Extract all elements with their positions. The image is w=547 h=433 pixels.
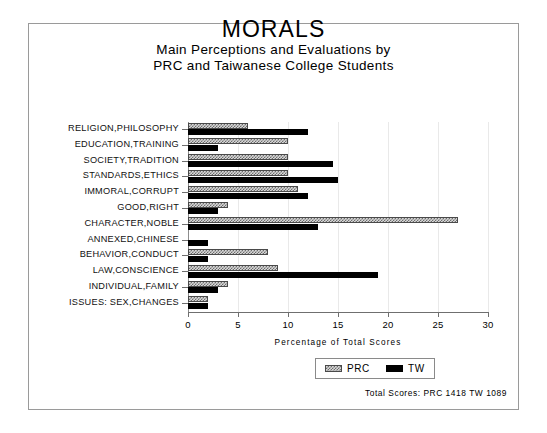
x-axis-tick-label: 15 — [332, 319, 343, 330]
bar-prc — [188, 281, 228, 287]
x-axis-tick-label: 20 — [382, 319, 393, 330]
category-label: GOOD,RIGHT — [117, 202, 179, 212]
x-axis-tick-label: 25 — [432, 319, 443, 330]
bar-row: SOCIETY,TRADITION — [188, 154, 488, 170]
x-axis-tick-label: 30 — [482, 319, 493, 330]
chart-subtitle-line-2: PRC and Taiwanese College Students — [0, 58, 547, 74]
bar-tw — [188, 129, 308, 135]
bar-prc — [188, 154, 288, 160]
category-label: LAW,CONSCIENCE — [93, 265, 179, 275]
x-axis-tick — [288, 312, 289, 317]
x-axis-tick — [488, 312, 489, 317]
legend-item-prc: PRC — [325, 363, 370, 374]
bar-row: EDUCATION,TRAINING — [188, 138, 488, 154]
bar-row: ISSUES: SEX,CHANGES — [188, 296, 488, 312]
legend-item-tw: TW — [386, 363, 425, 374]
chart-legend: PRC TW — [315, 358, 435, 379]
category-label: IMMORAL,CORRUPT — [84, 186, 179, 196]
bar-tw — [188, 193, 308, 199]
bar-tw — [188, 287, 218, 293]
bar-row: STANDARDS,ETHICS — [188, 169, 488, 185]
category-label: ISSUES: SEX,CHANGES — [69, 297, 179, 307]
x-axis-label: Percentage of Total Scores — [188, 338, 488, 347]
chart-title: MORALS — [0, 16, 547, 42]
bar-tw — [188, 208, 218, 214]
category-label: INDIVIDUAL,FAMILY — [89, 281, 179, 291]
title-block: MORALS Main Perceptions and Evaluations … — [0, 16, 547, 74]
bar-tw — [188, 145, 218, 151]
legend-label-tw: TW — [408, 363, 425, 374]
bar-tw — [188, 240, 208, 246]
x-axis-tick-label: 5 — [235, 319, 241, 330]
category-label: STANDARDS,ETHICS — [83, 170, 179, 180]
bar-prc — [188, 296, 208, 302]
x-axis-tick — [338, 312, 339, 317]
bar-prc — [188, 186, 298, 192]
total-scores-annotation: Total Scores: PRC 1418 TW 1089 — [0, 388, 507, 398]
x-axis-tick — [188, 312, 189, 317]
legend-swatch-prc — [325, 365, 342, 372]
bar-tw — [188, 177, 338, 183]
bar-prc — [188, 249, 268, 255]
bar-tw — [188, 303, 208, 309]
x-axis-tick — [438, 312, 439, 317]
bar-prc — [188, 170, 288, 176]
bar-prc — [188, 138, 288, 144]
bar-prc — [188, 217, 458, 223]
category-label: BEHAVIOR,CONDUCT — [80, 249, 179, 259]
bar-row: BEHAVIOR,CONDUCT — [188, 248, 488, 264]
bar-row: INDIVIDUAL,FAMILY — [188, 280, 488, 296]
category-label: EDUCATION,TRAINING — [75, 139, 179, 149]
bar-row: IMMORAL,CORRUPT — [188, 185, 488, 201]
bar-row: RELIGION,PHILOSOPHY — [188, 122, 488, 138]
category-label: ANNEXED,CHINESE — [87, 234, 179, 244]
plot-area: RELIGION,PHILOSOPHYEDUCATION,TRAININGSOC… — [188, 122, 488, 312]
bar-tw — [188, 161, 333, 167]
legend-label-prc: PRC — [347, 363, 370, 374]
x-axis-tick — [238, 312, 239, 317]
x-axis-tick — [388, 312, 389, 317]
category-label: SOCIETY,TRADITION — [84, 155, 179, 165]
legend-swatch-tw — [386, 365, 403, 372]
bar-prc — [188, 202, 228, 208]
bar-tw — [188, 256, 208, 262]
x-axis-tick-label: 0 — [185, 319, 191, 330]
bar-row: CHARACTER,NOBLE — [188, 217, 488, 233]
bar-prc — [188, 265, 278, 271]
bar-tw — [188, 224, 318, 230]
bar-row: LAW,CONSCIENCE — [188, 264, 488, 280]
category-label: CHARACTER,NOBLE — [84, 218, 179, 228]
bar-row: GOOD,RIGHT — [188, 201, 488, 217]
category-label: RELIGION,PHILOSOPHY — [68, 123, 179, 133]
bar-row: ANNEXED,CHINESE — [188, 233, 488, 249]
chart-subtitle-line-1: Main Perceptions and Evaluations by — [0, 42, 547, 58]
bar-prc — [188, 123, 248, 129]
bar-tw — [188, 272, 378, 278]
x-axis-tick-label: 10 — [282, 319, 293, 330]
